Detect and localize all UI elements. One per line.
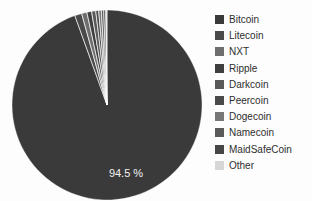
legend-item-namecoin[interactable]: Namecoin bbox=[215, 125, 312, 140]
legend-swatch-icon bbox=[215, 96, 224, 105]
pie-svg: 94.5 % bbox=[0, 0, 212, 201]
legend-item-label: Peercoin bbox=[229, 95, 268, 106]
legend-item-label: Bitcoin bbox=[229, 14, 259, 25]
legend-item-label: MaidSafeCoin bbox=[229, 144, 292, 155]
legend-item-label: Darkcoin bbox=[229, 79, 268, 90]
legend-swatch-icon bbox=[215, 161, 224, 170]
chart-legend: BitcoinLitecoinNXTRippleDarkcoinPeercoin… bbox=[215, 12, 312, 174]
pie-slices bbox=[12, 10, 202, 200]
pie-chart-figure: 94.5 % BitcoinLitecoinNXTRippleDarkcoinP… bbox=[0, 0, 312, 201]
legend-item-label: Namecoin bbox=[229, 127, 274, 138]
legend-item-maidsafecoin[interactable]: MaidSafeCoin bbox=[215, 142, 312, 157]
legend-item-bitcoin[interactable]: Bitcoin bbox=[215, 12, 312, 27]
legend-item-dogecoin[interactable]: Dogecoin bbox=[215, 109, 312, 124]
legend-swatch-icon bbox=[215, 64, 224, 73]
legend-item-label: NXT bbox=[229, 46, 249, 57]
legend-item-litecoin[interactable]: Litecoin bbox=[215, 28, 312, 43]
slice-label-bitcoin: 94.5 % bbox=[109, 167, 143, 179]
legend-swatch-icon bbox=[215, 15, 224, 24]
legend-item-darkcoin[interactable]: Darkcoin bbox=[215, 77, 312, 92]
legend-swatch-icon bbox=[215, 145, 224, 154]
legend-item-label: Ripple bbox=[229, 63, 257, 74]
legend-item-label: Litecoin bbox=[229, 30, 263, 41]
legend-swatch-icon bbox=[215, 47, 224, 56]
legend-item-peercoin[interactable]: Peercoin bbox=[215, 93, 312, 108]
legend-swatch-icon bbox=[215, 128, 224, 137]
legend-swatch-icon bbox=[215, 112, 224, 121]
legend-item-other[interactable]: Other bbox=[215, 158, 312, 173]
legend-swatch-icon bbox=[215, 80, 224, 89]
legend-item-ripple[interactable]: Ripple bbox=[215, 61, 312, 76]
legend-item-label: Dogecoin bbox=[229, 111, 271, 122]
legend-swatch-icon bbox=[215, 31, 224, 40]
legend-item-label: Other bbox=[229, 160, 254, 171]
legend-item-nxt[interactable]: NXT bbox=[215, 44, 312, 59]
pie-plot-area: 94.5 % bbox=[0, 0, 212, 201]
